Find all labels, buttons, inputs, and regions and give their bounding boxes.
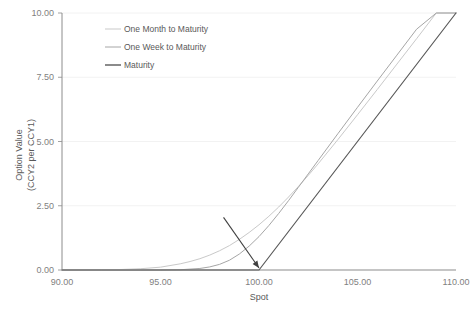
x-tick-label: 105.00	[344, 277, 372, 287]
legend-label: Maturity	[124, 60, 155, 70]
x-tick-label: 90.00	[51, 277, 74, 287]
y-axis-title-line2: (CCY2 per CCY1)	[26, 119, 36, 191]
y-tick-label: 10.00	[31, 8, 54, 18]
y-axis-title-line1: Option Value	[14, 129, 24, 180]
y-tick-label: 2.50	[36, 201, 54, 211]
x-tick-label: 100.00	[245, 277, 273, 287]
y-tick-label: 0.00	[36, 265, 54, 275]
legend-label: One Month to Maturity	[124, 24, 209, 34]
option-value-line-chart: 0.002.505.007.5010.00 90.0095.00100.0010…	[0, 0, 476, 318]
x-tick-label: 110.00	[443, 277, 470, 287]
legend-label: One Week to Maturity	[124, 42, 207, 52]
y-tick-label: 5.00	[36, 137, 54, 147]
x-tick-label: 95.00	[149, 277, 172, 287]
chart-container: 0.002.505.007.5010.00 90.0095.00100.0010…	[0, 0, 476, 318]
x-axis-title: Spot	[250, 292, 269, 302]
y-tick-label: 7.50	[36, 72, 54, 82]
